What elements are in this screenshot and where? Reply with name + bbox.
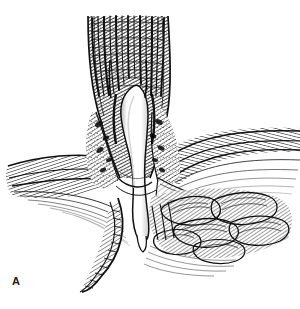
panel-label: A <box>12 276 20 287</box>
medical-illustration <box>0 0 300 309</box>
figure-panel: A <box>0 0 300 309</box>
caption-text <box>10 299 292 308</box>
